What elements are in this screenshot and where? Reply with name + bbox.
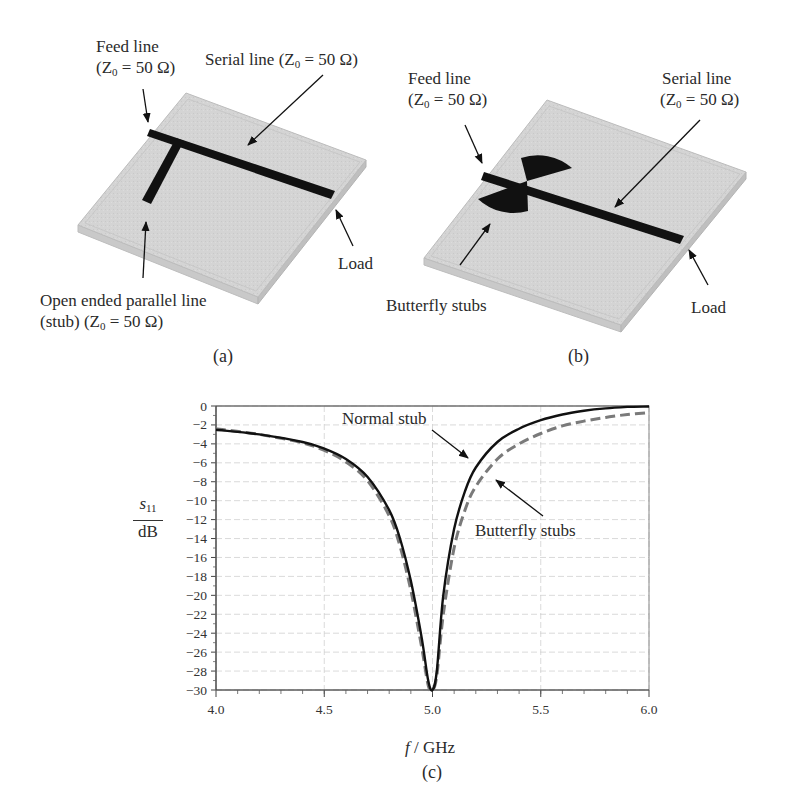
y-tick-label: −4: [193, 436, 208, 451]
figure-graphics: 0−2−4−6−8−10−12−14−16−18−20−22−24−26−28−…: [0, 0, 788, 809]
arrow-feed-b: [465, 125, 482, 163]
arrow-load-b: [689, 250, 708, 285]
load-label-b: Load: [691, 297, 726, 318]
y-tick-label: 0: [200, 399, 207, 414]
x-tick-label: 4.0: [208, 702, 225, 717]
s11-chart: 0−2−4−6−8−10−12−14−16−18−20−22−24−26−28−…: [186, 399, 658, 718]
y-tick-label: −18: [186, 569, 207, 584]
board-a: [78, 93, 366, 304]
feed-line-label-a: Feed line (Z0 = 50 Ω): [96, 36, 175, 83]
y-tick-label: −24: [186, 626, 207, 641]
y-tick-label: −2: [193, 417, 207, 432]
caption-b: (b): [568, 346, 589, 367]
x-tick-label: 5.0: [424, 702, 441, 717]
y-tick-label: −12: [186, 512, 207, 527]
y-tick-label: −10: [186, 493, 207, 508]
y-tick-label: −30: [186, 683, 207, 698]
y-tick-label: −28: [186, 664, 207, 679]
serial-line-label-a: Serial line (Z0 = 50 Ω): [205, 49, 358, 75]
y-tick-label: −14: [186, 531, 207, 546]
y-tick-label: −22: [186, 607, 207, 622]
series-normal-stub: [216, 407, 649, 691]
x-tick-label: 6.0: [641, 702, 658, 717]
stub-label-a: Open ended parallel line (stub) (Z0 = 50…: [40, 290, 207, 337]
y-tick-label: −20: [186, 588, 207, 603]
y-tick-label: −6: [193, 455, 208, 470]
y-axis-label: s11 dB: [133, 493, 163, 542]
load-label-a: Load: [338, 253, 373, 274]
y-tick-label: −26: [186, 645, 207, 660]
x-axis-label: f / GHz: [405, 737, 455, 758]
annotation-normal-stub: Normal stub: [342, 408, 427, 429]
annotation-butterfly-stubs: Butterfly stubs: [475, 520, 576, 541]
y-tick-label: −16: [186, 550, 207, 565]
butterfly-stubs-label-b: Butterfly stubs: [386, 295, 487, 316]
x-tick-label: 4.5: [316, 702, 333, 717]
arrow-load-a: [336, 210, 353, 246]
serial-line-label-b: Serial line (Z0 = 50 Ω): [660, 68, 739, 115]
y-tick-label: −8: [193, 474, 208, 489]
feed-line-label-b: Feed line (Z0 = 50 Ω): [408, 68, 487, 115]
caption-a: (a): [213, 346, 233, 367]
arrow-butterfly-stubs: [496, 480, 543, 516]
x-tick-label: 5.5: [532, 702, 549, 717]
arrow-feed-a: [143, 89, 148, 122]
caption-c: (c): [422, 762, 442, 783]
